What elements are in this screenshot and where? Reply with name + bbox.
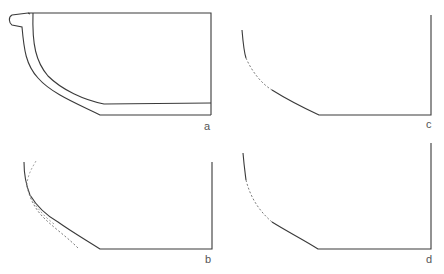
panel-c: c: [242, 15, 432, 130]
panel-c-reconstructed-wall: [246, 58, 272, 90]
panel-d-label: d: [426, 253, 432, 265]
panel-d-lower-wall: [272, 143, 431, 249]
panel-b-profile: [24, 162, 212, 249]
panel-b-label: b: [205, 253, 211, 265]
panel-a-label: a: [204, 120, 211, 132]
panel-c-upper-wall: [242, 30, 246, 58]
vessel-profile-figure: a c b d: [0, 0, 444, 274]
panel-a-inner-profile: [33, 13, 211, 104]
panel-b: b: [24, 161, 212, 265]
panel-d-upper-wall: [243, 153, 246, 180]
panel-b-alt-reconstruction-1: [27, 161, 36, 184]
panel-d-reconstructed-wall: [246, 180, 272, 222]
panel-b-alt-reconstruction-2: [27, 186, 78, 248]
panel-d: d: [243, 143, 432, 265]
panel-a: a: [9, 13, 211, 132]
panel-a-rim-top: [28, 13, 211, 115]
panel-c-label: c: [426, 118, 432, 130]
panel-c-lower-wall: [272, 15, 431, 115]
